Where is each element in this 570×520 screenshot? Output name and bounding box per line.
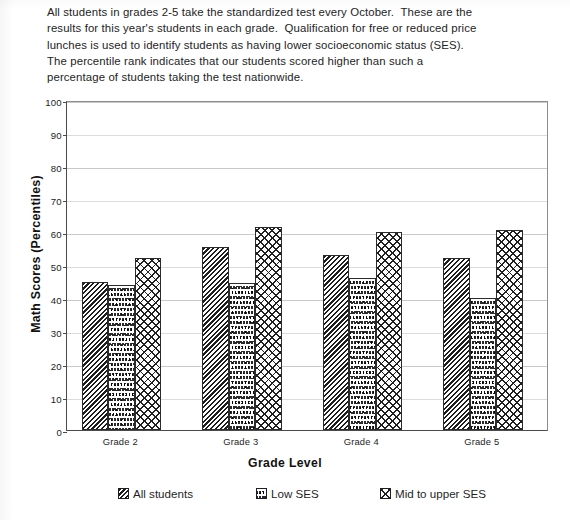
intro-paragraph: All students in grades 2-5 take the stan… (47, 4, 545, 85)
legend-item-all-students: All students (118, 487, 193, 500)
intro-line: lunches is used to identify students as … (47, 37, 545, 53)
bar (376, 232, 403, 430)
y-tick-label: 10 (51, 394, 62, 405)
chart-legend: All students Low SES Mid to upper SES (0, 487, 570, 513)
intro-line: All students in grades 2-5 take the stan… (47, 4, 545, 20)
intro-line: results for this year's students in each… (47, 20, 545, 36)
x-tick-label: Grade 4 (344, 436, 379, 447)
bar (82, 282, 109, 431)
y-tick-label: 100 (45, 97, 62, 108)
bar-chart: Math Scores (Percentiles) 01020304050607… (0, 92, 570, 452)
legend-label: Low SES (271, 487, 319, 500)
bar (323, 255, 350, 430)
y-tick-label: 60 (51, 229, 62, 240)
bar (229, 283, 256, 430)
y-tick-mark (63, 432, 67, 433)
legend-label: All students (133, 487, 193, 500)
y-tick-label: 30 (51, 328, 62, 339)
bar-group (67, 102, 188, 430)
legend-swatch-diagonal-icon (118, 488, 129, 499)
legend-swatch-wave-icon (256, 488, 267, 499)
legend-item-low-ses: Low SES (256, 487, 319, 500)
x-tick-label: Grade 5 (464, 436, 499, 447)
x-axis-title: Grade Level (0, 456, 570, 470)
bar-group (188, 102, 309, 430)
y-axis-title: Math Scores (Percentiles) (29, 134, 43, 374)
y-tick-label: 0 (56, 427, 62, 438)
bar-series-container (67, 102, 547, 430)
y-tick-label: 20 (51, 361, 62, 372)
bar (443, 258, 470, 430)
legend-swatch-crosshatch-icon (380, 488, 391, 499)
x-tick-label: Grade 2 (103, 436, 138, 447)
bar (135, 258, 162, 430)
intro-line: percentage of students taking the test n… (47, 69, 545, 85)
bar-group (429, 102, 550, 430)
bar (202, 247, 229, 430)
y-tick-label: 40 (51, 295, 62, 306)
bar (255, 227, 282, 430)
bar (470, 298, 497, 430)
y-tick-label: 50 (51, 262, 62, 273)
y-tick-label: 80 (51, 163, 62, 174)
intro-line: The percentile rank indicates that our s… (47, 53, 545, 69)
bar (108, 285, 135, 430)
y-tick-label: 70 (51, 196, 62, 207)
y-tick-label: 90 (51, 130, 62, 141)
plot-area: 0102030405060708090100 (66, 101, 548, 431)
bar-group (308, 102, 429, 430)
legend-item-mid-upper-ses: Mid to upper SES (380, 487, 486, 500)
x-tick-label: Grade 3 (223, 436, 258, 447)
bar (496, 230, 523, 430)
bar (349, 278, 376, 430)
legend-label: Mid to upper SES (395, 487, 486, 500)
